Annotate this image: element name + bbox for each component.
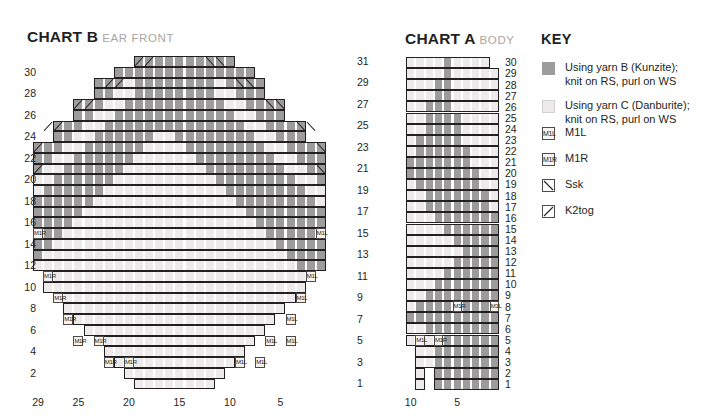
chart-cell [471, 68, 480, 79]
chart-cell [114, 271, 124, 282]
chart-cell [195, 142, 205, 153]
chart-cell [73, 207, 83, 218]
chart-cell [43, 260, 53, 271]
chart-cell [225, 228, 235, 239]
chart-cell [215, 153, 225, 164]
chart-cell [154, 67, 164, 78]
chart-cell [144, 78, 154, 89]
chart-b-row-label-right-15: 15 [357, 227, 375, 239]
chart-cell [124, 78, 134, 89]
chart-cell [425, 301, 434, 312]
chart-cell [225, 314, 235, 325]
chart-cell [235, 346, 245, 357]
chart-cell [255, 88, 265, 99]
chart-cell [134, 336, 144, 347]
chart-cell [63, 228, 73, 239]
chart-cell [443, 368, 452, 379]
chart-cell [164, 250, 174, 261]
chart-cell [434, 179, 443, 190]
chart-cell [434, 224, 443, 235]
chart-cell [480, 312, 489, 323]
chart-cell [144, 185, 154, 196]
chart-cell [415, 68, 424, 79]
chart-cell [154, 250, 164, 261]
chart-cell [235, 110, 245, 121]
chart-b-row-label-right-3: 3 [357, 356, 375, 368]
chart-cell [415, 124, 424, 135]
chart-cell [275, 250, 285, 261]
k2tog-marker [53, 121, 63, 132]
chart-cell [235, 131, 245, 142]
chart-cell [225, 121, 235, 132]
chart-cell [114, 185, 124, 196]
chart-cell [104, 303, 114, 314]
chart-cell [225, 78, 235, 89]
chart-cell [53, 131, 63, 142]
chart-cell [316, 185, 326, 196]
chart-cell [490, 335, 499, 346]
chart-cell [215, 207, 225, 218]
chart-cell [225, 174, 235, 185]
chart-cell [185, 228, 195, 239]
chart-cell [114, 217, 124, 228]
chart-cell [134, 379, 144, 390]
chart-cell [94, 303, 104, 314]
chart-cell [73, 239, 83, 250]
chart-b-row-label-right-1: 1 [357, 377, 375, 389]
chart-cell [235, 153, 245, 164]
chart-cell [73, 250, 83, 261]
chart-b-grid: M1RM1LM1RM1LM1RM1LM1RM1LM1RM1RM1LM1LM1RM… [33, 56, 326, 389]
chart-cell [462, 124, 471, 135]
chart-cell [255, 293, 265, 304]
chart-cell [53, 153, 63, 164]
chart-cell [316, 196, 326, 207]
chart-cell [286, 207, 296, 218]
chart-cell [134, 282, 144, 293]
chart-cell [434, 135, 443, 146]
chart-cell [286, 293, 296, 304]
chart-cell [255, 228, 265, 239]
chart-cell [144, 346, 154, 357]
chart-b-title: CHART BEAR FRONT [27, 28, 174, 46]
chart-cell [265, 260, 275, 271]
chart-cell [104, 325, 114, 336]
k2tog-marker [73, 99, 83, 110]
chart-cell [144, 174, 154, 185]
chart-cell [63, 250, 73, 261]
chart-cell [425, 279, 434, 290]
chart-cell [144, 196, 154, 207]
chart-cell [434, 68, 443, 79]
chart-cell [306, 142, 316, 153]
chart-cell [94, 293, 104, 304]
chart-cell [462, 312, 471, 323]
chart-cell [415, 268, 424, 279]
chart-cell [245, 110, 255, 121]
chart-cell [144, 142, 154, 153]
chart-cell [144, 314, 154, 325]
chart-cell [154, 293, 164, 304]
chart-cell [154, 131, 164, 142]
chart-cell [415, 179, 424, 190]
chart-a-col-label-5: 5 [446, 396, 468, 408]
chart-cell [94, 217, 104, 228]
chart-cell [164, 131, 174, 142]
chart-cell [490, 224, 499, 235]
chart-cell [406, 224, 415, 235]
chart-cell [490, 246, 499, 257]
chart-cell [471, 290, 480, 301]
chart-a-grid: M1RM1LM1LM1R [406, 57, 499, 390]
chart-b-row-label-left-4: 4 [14, 345, 36, 357]
chart-cell [205, 207, 215, 218]
chart-cell [205, 110, 215, 121]
chart-cell [453, 379, 462, 390]
chart-cell [453, 157, 462, 168]
key-item-label: M1L [565, 126, 586, 140]
chart-cell [63, 260, 73, 271]
chart-cell [255, 325, 265, 336]
chart-cell [453, 90, 462, 101]
chart-cell [425, 201, 434, 212]
chart-cell [43, 196, 53, 207]
chart-cell [215, 174, 225, 185]
chart-cell [104, 217, 114, 228]
chart-cell [462, 101, 471, 112]
